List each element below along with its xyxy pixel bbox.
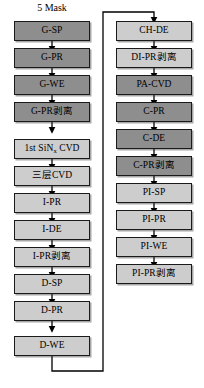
node-label-main: 1st SiN bbox=[24, 143, 53, 153]
node-c-pr-strip[interactable]: C-PR剥离 bbox=[116, 156, 192, 176]
node-label: D-WE bbox=[39, 341, 64, 351]
node-g-sp[interactable]: G-SP bbox=[14, 21, 90, 41]
node-three-cvd[interactable]: 三层CVD bbox=[14, 166, 90, 186]
node-label: 1st SiNx CVD bbox=[24, 144, 79, 154]
node-label: DI-PR剥离 bbox=[131, 53, 177, 63]
node-d-sp[interactable]: D-SP bbox=[14, 274, 90, 294]
node-g-we[interactable]: G-WE bbox=[14, 75, 90, 95]
node-sinx-cvd[interactable]: 1st SiNx CVD bbox=[14, 139, 90, 159]
node-label: PI-PR bbox=[142, 215, 166, 225]
node-pi-pr-strip[interactable]: PI-PR剥离 bbox=[116, 264, 192, 284]
node-label: C-DE bbox=[143, 134, 166, 144]
node-label: I-PR剥离 bbox=[33, 252, 72, 262]
node-pi-pr[interactable]: PI-PR bbox=[116, 210, 192, 230]
node-i-pr-strip[interactable]: I-PR剥离 bbox=[14, 247, 90, 267]
node-label: 三层CVD bbox=[32, 171, 73, 181]
node-label: D-PR bbox=[41, 306, 63, 316]
node-pi-sp[interactable]: PI-SP bbox=[116, 183, 192, 203]
node-label: G-PR bbox=[41, 53, 63, 63]
node-ch-de[interactable]: CH-DE bbox=[116, 21, 192, 41]
node-label-tail: CVD bbox=[57, 143, 80, 153]
node-g-pr[interactable]: G-PR bbox=[14, 48, 90, 68]
node-label: G-PR剥离 bbox=[31, 107, 73, 117]
page-title: 5 Mask bbox=[14, 2, 90, 13]
node-label: C-PR剥离 bbox=[133, 161, 175, 171]
node-label: I-DE bbox=[42, 225, 61, 235]
node-c-de[interactable]: C-DE bbox=[116, 129, 192, 149]
node-label: D-SP bbox=[42, 279, 63, 289]
node-di-pr-strip[interactable]: DI-PR剥离 bbox=[116, 48, 192, 68]
node-label-subscript: x bbox=[53, 147, 56, 154]
node-label: I-PR bbox=[43, 198, 61, 208]
process-flowchart: 5 Mask G-SP G-PR G-WE G-PR剥离 1st SiNx CV… bbox=[0, 0, 204, 388]
node-label: G-SP bbox=[42, 26, 63, 36]
node-label: CH-DE bbox=[139, 26, 169, 36]
node-label: PI-WE bbox=[141, 242, 168, 252]
node-g-pr-strip[interactable]: G-PR剥离 bbox=[14, 102, 90, 122]
node-i-pr[interactable]: I-PR bbox=[14, 193, 90, 213]
node-d-pr[interactable]: D-PR bbox=[14, 301, 90, 321]
node-label: G-WE bbox=[39, 80, 64, 90]
node-c-pr[interactable]: C-PR bbox=[116, 102, 192, 122]
node-i-de[interactable]: I-DE bbox=[14, 220, 90, 240]
node-label: C-PR bbox=[143, 107, 165, 117]
node-label: PI-PR剥离 bbox=[132, 269, 176, 279]
node-label: PI-SP bbox=[143, 188, 166, 198]
node-pa-cvd[interactable]: PA-CVD bbox=[116, 75, 192, 95]
node-d-we[interactable]: D-WE bbox=[14, 336, 90, 356]
node-label: PA-CVD bbox=[136, 80, 171, 90]
node-pi-we[interactable]: PI-WE bbox=[116, 237, 192, 257]
